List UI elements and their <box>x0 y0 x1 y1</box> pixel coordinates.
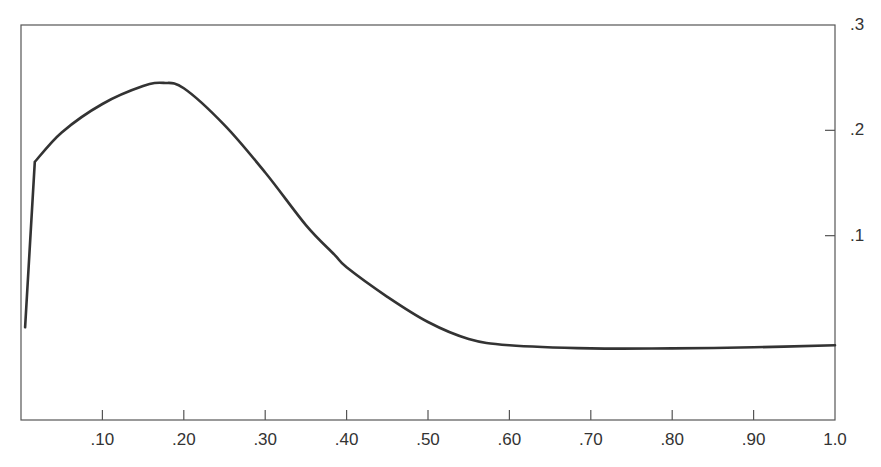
line-chart: .10.20.30.40.50.60.70.80.901.0 .1.2.3 <box>0 0 881 467</box>
x-tick-label: 1.0 <box>823 430 847 449</box>
y-tick-label: .3 <box>850 15 864 34</box>
x-tick-label: .50 <box>416 430 440 449</box>
y-tick-label: .2 <box>850 120 864 139</box>
x-axis: .10.20.30.40.50.60.70.80.901.0 <box>91 410 847 449</box>
x-tick-label: .20 <box>172 430 196 449</box>
x-tick-label: .10 <box>91 430 115 449</box>
x-tick-label: .60 <box>498 430 522 449</box>
x-tick-label: .40 <box>335 430 359 449</box>
x-tick-label: .30 <box>253 430 277 449</box>
x-tick-label: .90 <box>742 430 766 449</box>
x-tick-label: .70 <box>579 430 603 449</box>
y-axis: .1.2.3 <box>825 15 864 245</box>
y-tick-label: .1 <box>850 226 864 245</box>
plot-frame <box>21 25 835 420</box>
x-tick-label: .80 <box>660 430 684 449</box>
data-line <box>25 83 835 349</box>
